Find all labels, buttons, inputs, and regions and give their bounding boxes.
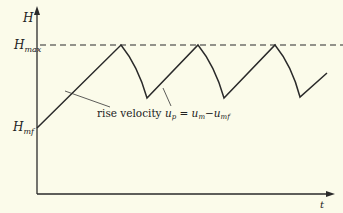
h-mf-label-sub: mf [23,127,36,136]
annotation-equals: = [176,107,191,119]
y-axis-label: H [22,11,34,25]
h-max-label-sub: max [24,45,41,54]
x-axis-label: t [320,199,325,210]
diagram-canvas: H Hmax Hmf t rise velocity up = um−umf [0,0,343,213]
annotation-umf-sub: mf [221,113,232,121]
leader-line-left [65,91,110,107]
x-axis-arrow-icon [326,191,335,197]
y-axis-arrow-icon [34,6,40,15]
h-mf-label: Hmf [12,120,36,136]
annotation-prefix: rise velocity [97,107,165,119]
h-max-label-base: H [13,38,25,52]
rise-velocity-annotation: rise velocity up = um−umf [97,107,231,121]
leader-line-right [163,88,171,106]
h-mf-label-base: H [12,120,24,134]
annotation-minus: − [205,107,214,119]
